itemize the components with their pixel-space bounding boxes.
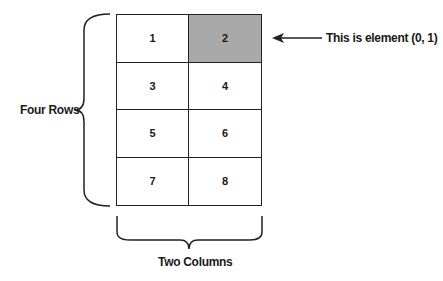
rows-label: Four Rows [20, 103, 79, 117]
bottom-brace-icon [117, 216, 262, 249]
columns-label: Two Columns [158, 255, 232, 269]
left-brace-icon [75, 14, 110, 206]
pointer-label: This is element (0, 1) [326, 31, 437, 45]
